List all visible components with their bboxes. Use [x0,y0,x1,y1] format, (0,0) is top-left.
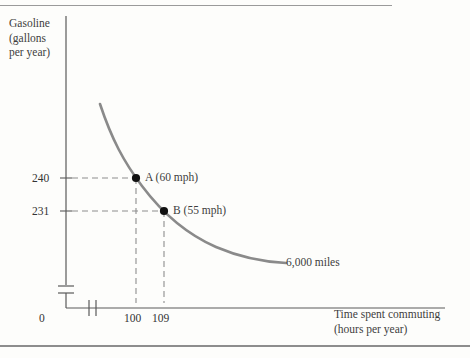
x-axis-title: Time spent commuting (hours per year) [334,307,440,336]
x-tick-label-100: 100 [124,311,141,326]
data-point-a-label: A (60 mph) [145,170,198,185]
y-tick-label-231: 231 [32,204,49,219]
y-axis-title-line2: (gallons [9,32,46,44]
x-axis-title-line1: Time spent commuting [334,308,440,320]
data-point-b-label: B (55 mph) [173,203,226,218]
curve-annotation-label: 6,000 miles [286,255,340,270]
plot-area [0,0,470,358]
x-axis-title-line2: (hours per year) [334,323,407,335]
y-axis-title-line3: per year) [9,46,50,58]
x-tick-label-0: 0 [39,311,45,326]
data-point-a [132,174,140,182]
x-tick-label-109: 109 [152,311,169,326]
y-axis-title: Gasoline (gallons per year) [9,16,50,60]
y-axis-title-line1: Gasoline [9,17,50,29]
figure-container: Gasoline (gallons per year) Time spent c… [0,0,470,358]
data-point-b [160,207,168,215]
y-tick-label-240: 240 [32,171,49,186]
